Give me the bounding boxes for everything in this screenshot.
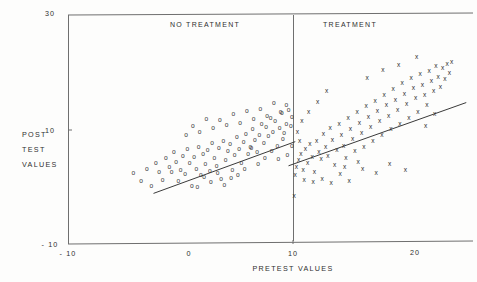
data-point-o: o (209, 178, 213, 185)
data-point-x: x (343, 163, 347, 170)
data-point-x: x (355, 108, 359, 115)
data-point-x: x (351, 135, 355, 142)
data-point-o: o (203, 160, 207, 167)
data-point-o: o (217, 144, 221, 151)
data-point-o: o (255, 148, 259, 155)
data-point-x: x (349, 125, 353, 132)
data-point-x: x (331, 136, 335, 143)
data-point-o: o (154, 159, 158, 166)
data-point-x: x (362, 143, 366, 150)
data-point-x: x (414, 94, 418, 101)
data-point-x: x (367, 113, 371, 120)
data-point-o: o (253, 136, 257, 143)
data-point-o: o (206, 146, 210, 153)
data-point-x: x (308, 140, 312, 147)
data-point-o: o (190, 182, 194, 189)
frame-bottom-axis (68, 241, 473, 244)
data-point-x: x (319, 155, 323, 162)
data-point-o: o (235, 133, 239, 140)
data-point-x: x (322, 130, 326, 137)
data-point-x: x (324, 143, 328, 150)
data-point-x: x (407, 114, 411, 121)
panel-label-treatment: TREATMENT (323, 21, 377, 28)
data-point-x: x (328, 124, 332, 131)
data-point-o: o (211, 124, 215, 131)
data-point-x: x (364, 102, 368, 109)
data-point-x: x (412, 84, 416, 91)
data-point-o: o (243, 165, 247, 172)
data-point-x: x (418, 70, 422, 77)
data-point-o: o (221, 137, 225, 144)
data-point-o: o (286, 151, 290, 158)
y-tick-label-minus10: - 10 (42, 240, 59, 249)
data-point-o: o (179, 166, 183, 173)
data-point-o: o (161, 176, 165, 183)
x-axis-title: PRETEST VALUES (252, 264, 333, 273)
data-point-o: o (281, 135, 285, 142)
data-point-o: o (242, 138, 246, 145)
data-point-o: o (131, 169, 135, 176)
data-point-o: o (172, 148, 176, 155)
data-point-x: x (441, 64, 445, 71)
data-point-o: o (237, 145, 241, 152)
data-point-o: o (232, 110, 236, 117)
data-point-o: o (174, 158, 178, 165)
data-point-x: x (450, 58, 454, 65)
data-point-o: o (157, 168, 161, 175)
data-point-o: o (228, 140, 232, 147)
data-point-x: x (434, 62, 438, 69)
data-point-x: x (448, 69, 452, 76)
data-point-o: o (256, 160, 260, 167)
data-point-o: o (205, 115, 209, 122)
data-point-x: x (339, 170, 343, 177)
data-point-o: o (290, 113, 294, 120)
data-point-o: o (230, 166, 234, 173)
data-point-o: o (210, 139, 214, 146)
data-point-x: x (404, 166, 408, 173)
data-point-o: o (181, 152, 185, 159)
data-point-o: o (271, 128, 275, 135)
data-point-o: o (170, 168, 174, 175)
data-point-x: x (423, 91, 427, 98)
data-point-o: o (201, 150, 205, 157)
data-point-o: o (139, 177, 143, 184)
data-point-x: x (303, 176, 307, 183)
data-point-x: x (315, 137, 319, 144)
panel-label-no-treatment: NO TREATMENT (170, 21, 240, 28)
data-point-o: o (252, 115, 256, 122)
data-point-x: x (358, 119, 362, 126)
data-point-x: x (415, 53, 419, 60)
data-point-o: o (263, 154, 267, 161)
data-point-o: o (259, 105, 263, 112)
data-point-o: o (185, 145, 189, 152)
data-point-x: x (405, 100, 409, 107)
data-point-o: o (164, 154, 168, 161)
data-series-layer: oooooooooooooooooooooooooooooooooooooooo… (131, 53, 466, 199)
data-point-x: x (432, 87, 436, 94)
data-point-o: o (238, 119, 242, 126)
data-point-x: x (378, 117, 382, 124)
data-point-o: o (183, 170, 187, 177)
data-point-o: o (273, 117, 277, 124)
data-point-o: o (224, 156, 228, 163)
data-point-x: x (381, 66, 385, 73)
data-point-x: x (335, 146, 339, 153)
data-point-x: x (436, 73, 440, 80)
data-point-o: o (262, 139, 266, 146)
data-point-x: x (325, 87, 329, 94)
data-point-x: x (409, 74, 413, 81)
data-point-o: o (284, 120, 288, 127)
data-point-o: o (176, 177, 180, 184)
data-point-o: o (233, 151, 237, 158)
data-point-o: o (145, 165, 149, 172)
data-point-x: x (403, 90, 407, 97)
data-point-x: x (316, 98, 320, 105)
data-point-x: x (326, 152, 330, 159)
data-point-o: o (212, 154, 216, 161)
x-tick-label-minus10: - 10 (60, 249, 77, 258)
data-point-x: x (400, 79, 404, 86)
data-point-o: o (277, 155, 281, 162)
data-point-x: x (394, 96, 398, 103)
data-point-x: x (353, 147, 357, 154)
data-point-x: x (382, 91, 386, 98)
